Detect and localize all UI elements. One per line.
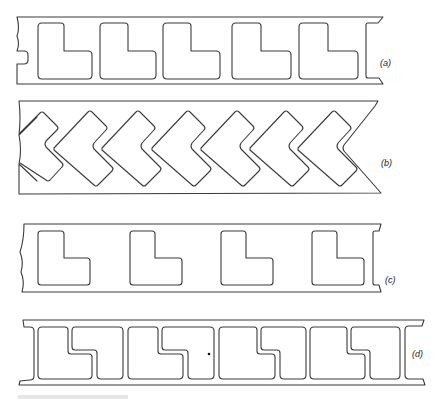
panel-c-label: (c)	[385, 275, 396, 285]
panel-a-L-hole-2	[100, 23, 156, 79]
illegible-caption-fragment	[18, 395, 128, 399]
panel-d-stepped-hole-4a	[310, 327, 365, 379]
panel-a-label: (a)	[380, 58, 391, 68]
panel-c-L-hole-1	[38, 231, 90, 285]
speck-mark	[208, 353, 211, 356]
panel-d-stepped-hole-3b	[261, 327, 306, 379]
panel-a: (a)	[17, 17, 391, 84]
panel-d-strip-outline	[19, 320, 425, 385]
panel-d-label: (d)	[412, 349, 423, 359]
panel-a-L-hole-5	[299, 23, 358, 79]
panel-b-chevron-hole-6	[298, 111, 357, 186]
panel-b-strip-outline	[19, 101, 381, 194]
panel-c: (c)	[20, 224, 396, 292]
nesting-layout-diagram: (a) (b) (c)	[0, 0, 441, 402]
panel-d: (d)	[19, 320, 425, 385]
panel-a-L-hole-1	[38, 23, 92, 79]
panel-d-stepped-hole-2b	[162, 327, 214, 379]
panel-d-stepped-hole-1a	[38, 327, 92, 379]
panel-a-L-hole-4	[232, 23, 291, 79]
panel-c-L-hole-2	[130, 231, 182, 285]
panel-c-L-hole-4	[312, 231, 364, 285]
panel-b: (b)	[19, 101, 392, 194]
panel-b-label: (b)	[381, 158, 392, 168]
panel-d-stepped-hole-4b	[351, 327, 400, 379]
panel-b-chevron-hole-1	[54, 111, 113, 186]
panel-a-L-hole-3	[163, 23, 220, 79]
panel-b-chevron-hole-4	[201, 111, 260, 186]
panel-c-L-hole-3	[221, 231, 273, 285]
panel-b-chevron-hole-5	[250, 111, 309, 186]
panel-d-stepped-hole-1b	[72, 327, 123, 379]
panel-d-stepped-hole-3a	[219, 327, 275, 379]
panel-d-stepped-hole-2a	[128, 327, 183, 379]
panel-b-chevron-hole-3	[152, 111, 211, 186]
